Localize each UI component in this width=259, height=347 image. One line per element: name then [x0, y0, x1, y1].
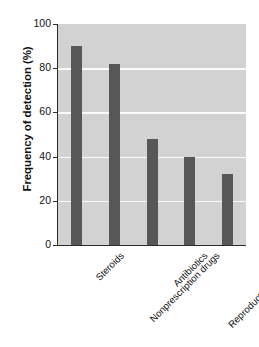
y-tick-label: 20: [39, 194, 51, 206]
bar: [71, 46, 82, 245]
y-tick-label: 40: [39, 150, 51, 162]
plot-area: [58, 24, 246, 245]
bar: [184, 157, 195, 245]
y-tick-label: 60: [39, 105, 51, 117]
y-tick-label: 0: [45, 238, 51, 250]
y-tick-label: 80: [39, 61, 51, 73]
bar-chart-figure: Frequency of detection (%) 020406080100 …: [0, 0, 259, 347]
bar: [147, 139, 158, 245]
bar: [109, 64, 120, 245]
x-tick-label: Reproductive hormones: [225, 250, 259, 330]
bar: [222, 174, 233, 245]
y-tick-label: 100: [33, 17, 51, 29]
y-axis-title: Frequency of detection (%): [21, 9, 33, 229]
bar-series: [58, 24, 246, 245]
x-tick-label: Steroids: [93, 250, 126, 283]
x-axis-line: [57, 245, 246, 246]
x-tick-label: Nonprescription drugs: [148, 250, 222, 324]
x-tick-label: Antibiotics: [171, 250, 210, 289]
